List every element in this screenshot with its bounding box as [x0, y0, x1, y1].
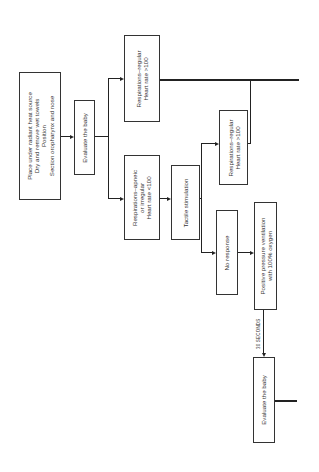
branch-to-apneic: [108, 198, 120, 199]
resp-regular-2-line-1: Respirations–regular: [226, 119, 233, 176]
branch-to-regular-2: [201, 143, 215, 144]
resp-apneic-box: Respirations–apneic or irregular Heart r…: [124, 155, 160, 240]
initial-steps-line-2: Dry and remove wet towels: [33, 92, 40, 180]
resp-regular-2-line-2: Heart rate >100: [234, 119, 241, 176]
edge-label-30-seconds: 30 SECONDS: [256, 318, 261, 349]
regular-2-join-vertical: [250, 79, 251, 144]
evaluate-baby-box-2: Evaluate the baby: [253, 357, 275, 443]
tactile-stimulation-text: Tactile stimulation: [182, 178, 189, 227]
tactile-stimulation-box: Tactile stimulation: [171, 165, 200, 240]
resp-regular-box-2: Respirations–regular Heart rate >100: [219, 110, 248, 185]
connector-no-response-ppv: [238, 252, 250, 253]
branch-to-regular-1: [108, 78, 120, 79]
ppv-text: Positive pressure ventilation with 100% …: [258, 217, 272, 294]
resp-regular-text-2: Respirations–regular Heart rate >100: [226, 119, 240, 176]
resp-regular-1-line-2: Heart rate >100: [142, 50, 149, 107]
initial-steps-box: Place under radiant heat source Dry and …: [19, 72, 61, 200]
resp-apneic-line-1: Respirations–apneic: [131, 169, 138, 225]
connector-apneic-tactile: [160, 198, 167, 199]
branch-vertical-2: [201, 143, 202, 253]
evaluate-baby-text-1: Evaluate the baby: [81, 113, 88, 163]
evaluate-baby-box-1: Evaluate the baby: [74, 100, 95, 175]
resp-regular-box-1: Respirations–regular Heart rate >100: [124, 35, 160, 122]
main-continue-line: [160, 79, 299, 81]
initial-steps-line-4: Section oropharynx and nose: [47, 92, 54, 180]
connector-evaluate-branch: [95, 136, 108, 137]
resp-regular-1-line-1: Respirations–regular: [135, 50, 142, 107]
initial-steps-line-1: Place under radiant heat source: [26, 92, 33, 180]
resp-apneic-text: Respirations–apneic or irregular Heart r…: [131, 169, 153, 225]
no-response-box: No response: [216, 210, 238, 295]
evaluate-baby-text-2: Evaluate the baby: [260, 375, 267, 425]
initial-steps-text: Place under radiant heat source Dry and …: [26, 92, 55, 180]
ppv-line-1: Positive pressure ventilation: [258, 217, 265, 294]
ppv-line-2: with 100% oxygen: [266, 217, 273, 294]
ppv-box: Positive pressure ventilation with 100% …: [254, 202, 277, 310]
branch-to-no-response: [201, 252, 212, 253]
initial-steps-line-3: Position: [40, 92, 47, 180]
evaluate-baby-label-2: Evaluate the baby: [260, 375, 267, 425]
connector-ppv-evaluate: [263, 310, 264, 353]
evaluate-2-continue-line: [275, 400, 297, 402]
branch-vertical-1: [108, 78, 109, 199]
evaluate-baby-label-1: Evaluate the baby: [81, 113, 88, 163]
no-response-label: No response: [223, 235, 230, 270]
resp-regular-text-1: Respirations–regular Heart rate >100: [135, 50, 149, 107]
tactile-stimulation-label: Tactile stimulation: [182, 178, 189, 227]
resp-apneic-line-3: Heart rate <100: [146, 169, 153, 225]
resp-apneic-line-2: or irregular: [138, 169, 145, 225]
no-response-text: No response: [223, 235, 230, 270]
